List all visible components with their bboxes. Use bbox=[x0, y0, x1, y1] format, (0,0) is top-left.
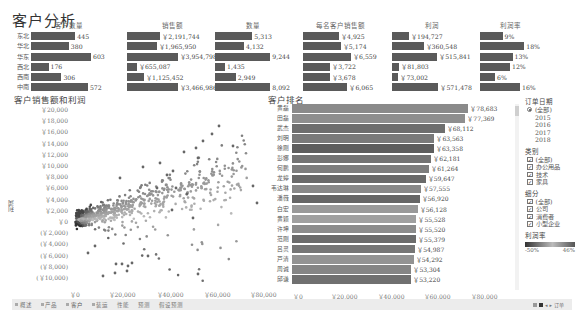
sheet-tab[interactable]: 客户 bbox=[63, 301, 83, 309]
kpi-row[interactable]: ￥6,065 bbox=[303, 82, 378, 92]
kpi-row[interactable]: 9% bbox=[480, 31, 540, 41]
kpi-row[interactable]: ￥1,125,452 bbox=[127, 72, 217, 82]
checkbox[interactable]: ✓ bbox=[527, 179, 533, 185]
ranking-bar[interactable] bbox=[292, 215, 416, 224]
kpi-row[interactable]: 18% bbox=[480, 41, 540, 51]
filter-option[interactable]: 2016 bbox=[525, 121, 579, 129]
prev-sheet-icon[interactable]: ◂ bbox=[545, 302, 548, 308]
ranking-row[interactable]: 刘明￥63,563 bbox=[265, 134, 505, 143]
ranking-bar[interactable] bbox=[292, 144, 434, 153]
filter-option[interactable]: 2015 bbox=[525, 114, 579, 122]
kpi-row[interactable]: 1,435 bbox=[215, 62, 290, 72]
kpi-row[interactable]: 9,244 bbox=[215, 52, 290, 62]
kpi-bar[interactable] bbox=[31, 53, 91, 61]
kpi-bar[interactable] bbox=[31, 83, 88, 91]
kpi-bar[interactable] bbox=[31, 42, 69, 50]
ranking-bar[interactable] bbox=[292, 265, 411, 274]
grid-view-icon[interactable] bbox=[533, 303, 537, 307]
ranking-row[interactable]: 彭娜￥62,181 bbox=[265, 154, 505, 163]
sheet-tab[interactable]: 产品 bbox=[38, 301, 58, 309]
filter-option[interactable]: ✓公司 bbox=[525, 205, 579, 213]
kpi-bar[interactable] bbox=[215, 83, 270, 91]
scrollbar-thumb[interactable] bbox=[515, 106, 519, 116]
kpi-bar[interactable] bbox=[303, 42, 341, 50]
ranking-row[interactable]: 潘薇￥56,920 bbox=[265, 194, 505, 203]
ranking-bar[interactable] bbox=[292, 124, 445, 133]
checkbox[interactable]: ✓ bbox=[527, 199, 533, 205]
filter-option[interactable]: ✓小型企业 bbox=[525, 220, 579, 228]
ranking-bar[interactable] bbox=[292, 134, 434, 143]
kpi-bar[interactable] bbox=[127, 53, 178, 61]
next-sheet-icon[interactable]: ▸ bbox=[549, 302, 552, 308]
kpi-bar[interactable] bbox=[31, 73, 61, 81]
ranking-bar[interactable] bbox=[292, 175, 426, 184]
ranking-row[interactable]: 田磊￥77,369 bbox=[265, 114, 505, 123]
kpi-bar[interactable] bbox=[31, 32, 75, 40]
ranking-row[interactable]: 何鹏￥61,264 bbox=[265, 164, 505, 173]
ranking-row[interactable]: 吕灵￥54,987 bbox=[265, 245, 505, 254]
checkbox[interactable]: ✓ bbox=[527, 164, 533, 170]
kpi-row[interactable]: ￥4,925 bbox=[303, 31, 378, 41]
kpi-row[interactable]: 中南572 bbox=[31, 82, 106, 92]
scrollbar[interactable] bbox=[515, 104, 519, 290]
kpi-row[interactable]: ￥655,087 bbox=[127, 62, 217, 72]
kpi-row[interactable]: ￥81,803 bbox=[392, 62, 472, 72]
kpi-row[interactable]: ￥3,722 bbox=[303, 62, 378, 72]
filter-option[interactable]: 2017 bbox=[525, 129, 579, 137]
ranking-row[interactable]: 徐刚￥63,358 bbox=[265, 144, 505, 153]
kpi-row[interactable]: 华北380 bbox=[31, 41, 106, 51]
kpi-row[interactable]: ￥6,559 bbox=[303, 52, 378, 62]
kpi-row[interactable]: 5,313 bbox=[215, 31, 290, 41]
ranking-bar[interactable] bbox=[292, 155, 431, 164]
filter-option[interactable]: ✓家具 bbox=[525, 178, 579, 186]
kpi-bar[interactable] bbox=[303, 53, 351, 61]
checkbox[interactable]: ✓ bbox=[527, 206, 533, 212]
kpi-row[interactable]: 西北176 bbox=[31, 62, 106, 72]
ranking-bar[interactable] bbox=[292, 235, 416, 244]
kpi-row[interactable]: ￥360,548 bbox=[392, 41, 472, 51]
kpi-row[interactable]: 2,949 bbox=[215, 72, 290, 82]
filter-option[interactable]: ✓(全部) bbox=[525, 198, 579, 206]
checkbox[interactable]: ✓ bbox=[527, 157, 533, 163]
sheet-tab[interactable]: 装运 bbox=[89, 301, 109, 309]
kpi-bar[interactable] bbox=[392, 32, 409, 40]
kpi-row[interactable]: 6% bbox=[480, 72, 540, 82]
kpi-row[interactable]: 西南306 bbox=[31, 72, 106, 82]
kpi-bar[interactable] bbox=[480, 32, 503, 40]
ranking-bar[interactable] bbox=[292, 185, 421, 194]
radio-button[interactable] bbox=[527, 122, 532, 127]
kpi-row[interactable]: ￥571,478 bbox=[392, 82, 472, 92]
kpi-bar[interactable] bbox=[215, 42, 244, 50]
radio-button[interactable] bbox=[527, 107, 532, 112]
ranking-row[interactable]: 周诚￥53,304 bbox=[265, 265, 505, 274]
ranking-bar[interactable] bbox=[292, 255, 414, 264]
filter-option[interactable]: ✓消费者 bbox=[525, 213, 579, 221]
checkbox[interactable]: ✓ bbox=[527, 214, 533, 220]
kpi-bar[interactable] bbox=[127, 32, 160, 40]
kpi-row[interactable]: ￥515,841 bbox=[392, 52, 472, 62]
ranking-row[interactable]: 韦达琳￥57,555 bbox=[265, 184, 505, 193]
ranking-row[interactable]: 龙婷￥59,647 bbox=[265, 174, 505, 183]
kpi-bar[interactable] bbox=[127, 73, 144, 81]
ranking-row[interactable]: 黄颖￥55,528 bbox=[265, 215, 505, 224]
ranking-bar[interactable] bbox=[292, 225, 416, 234]
kpi-bar[interactable] bbox=[303, 32, 339, 40]
kpi-row[interactable]: 16% bbox=[480, 82, 540, 92]
sheet-tab[interactable]: 假设预测 bbox=[156, 301, 183, 309]
checkbox[interactable]: ✓ bbox=[527, 172, 533, 178]
radio-button[interactable] bbox=[527, 137, 532, 142]
radio-button[interactable] bbox=[527, 130, 532, 135]
ranking-bar[interactable] bbox=[292, 205, 418, 214]
kpi-row[interactable]: ￥2,191,744 bbox=[127, 31, 217, 41]
kpi-row[interactable]: 东北445 bbox=[31, 31, 106, 41]
sheet-list-label[interactable]: 订单 bbox=[554, 301, 564, 308]
ranking-row[interactable]: 许坤￥55,520 bbox=[265, 225, 505, 234]
ranking-bar[interactable] bbox=[292, 195, 420, 204]
kpi-bar[interactable] bbox=[31, 63, 49, 71]
ranking-bar[interactable] bbox=[292, 165, 429, 174]
kpi-bar[interactable] bbox=[215, 73, 236, 81]
kpi-bar[interactable] bbox=[480, 42, 524, 50]
ranking-row[interactable]: 黄磊￥78,683 bbox=[265, 104, 505, 113]
filter-option[interactable]: ✓(全部) bbox=[525, 156, 579, 164]
kpi-bar[interactable] bbox=[215, 63, 225, 71]
